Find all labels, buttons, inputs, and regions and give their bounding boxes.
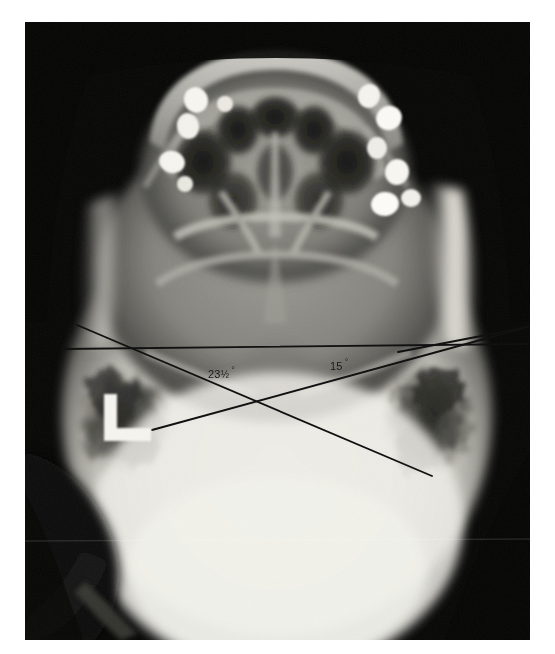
angle-23-value: 23 [208, 368, 221, 380]
angle-15-value: 15 [330, 360, 343, 372]
angle-label-15: 15° [330, 357, 348, 372]
page-background: 23½° 15° [0, 0, 555, 654]
angle-23-fraction: ½ [221, 369, 230, 380]
radiograph-film: 23½° 15° [25, 22, 530, 640]
film-grain [25, 22, 530, 640]
angle-label-23-half: 23½° [208, 365, 235, 380]
radiograph-image [25, 22, 530, 640]
angle-15-unit: ° [345, 357, 349, 367]
angle-23-unit: ° [231, 365, 235, 375]
